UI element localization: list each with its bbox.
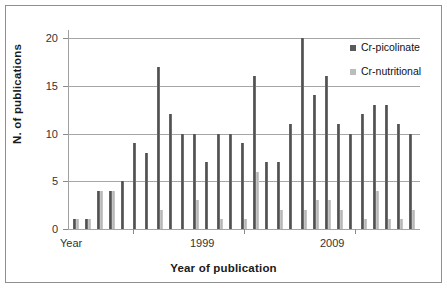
bar-nutritional <box>112 191 115 229</box>
bar-group <box>154 38 166 229</box>
bar-group <box>274 38 286 229</box>
bar-group <box>118 38 130 229</box>
bar-group <box>106 38 118 229</box>
bar-group <box>238 38 250 229</box>
bar-nutritional <box>280 210 283 229</box>
y-axis-title: N. of publications <box>11 9 23 179</box>
bar-nutritional <box>364 219 367 229</box>
legend-label: Cr-picolinate <box>361 42 420 53</box>
bar-nutritional <box>100 191 103 229</box>
x-tick-label: 1999 <box>190 238 214 249</box>
bar-group <box>166 38 178 229</box>
bar-picolinate <box>289 124 292 229</box>
legend-swatch-icon <box>350 69 356 75</box>
bar-nutritional <box>220 219 223 229</box>
bar-nutritional <box>256 172 259 229</box>
bar-group <box>310 38 322 229</box>
bar-group <box>202 38 214 229</box>
bar-nutritional <box>304 210 307 229</box>
bar-group <box>322 38 334 229</box>
bar-group <box>178 38 190 229</box>
bar-group <box>262 38 274 229</box>
x-tick-mark <box>355 229 356 234</box>
chart-legend: Cr-picolinateCr-nutritional <box>350 42 442 90</box>
bar-nutritional <box>88 219 91 229</box>
bar-group <box>82 38 94 229</box>
bar-nutritional <box>412 210 415 229</box>
bar-nutritional <box>328 200 331 229</box>
bar-nutritional <box>76 219 79 229</box>
bar-picolinate <box>301 38 304 229</box>
bar-picolinate <box>229 134 232 230</box>
bar-group <box>250 38 262 229</box>
bar-picolinate <box>349 134 352 230</box>
bar-nutritional <box>160 210 163 229</box>
chart-figure: N. of publications 05101520 Year19992009… <box>0 0 447 288</box>
bar-nutritional <box>376 191 379 229</box>
bar-group <box>130 38 142 229</box>
x-tick-mark <box>244 229 245 234</box>
bar-picolinate <box>217 134 220 230</box>
bar-picolinate <box>145 153 148 229</box>
x-axis-title: Year of publication <box>0 262 447 274</box>
bar-group <box>94 38 106 229</box>
bar-group <box>214 38 226 229</box>
bar-picolinate <box>133 143 136 229</box>
bar-group <box>70 38 82 229</box>
x-tick-mark <box>133 229 134 234</box>
bar-picolinate <box>181 134 184 230</box>
bar-group <box>334 38 346 229</box>
legend-item: Cr-nutritional <box>350 66 442 77</box>
bar-group <box>142 38 154 229</box>
bar-group <box>298 38 310 229</box>
bar-picolinate <box>397 124 400 229</box>
bar-group <box>226 38 238 229</box>
bar-nutritional <box>244 219 247 229</box>
bar-nutritional <box>340 210 343 229</box>
bar-nutritional <box>388 219 391 229</box>
bar-picolinate <box>169 114 172 229</box>
x-tick-label: 2009 <box>320 238 344 249</box>
legend-swatch-icon <box>350 45 356 51</box>
legend-item: Cr-picolinate <box>350 42 442 53</box>
x-axis-ticks <box>68 229 420 234</box>
bar-picolinate <box>385 105 388 229</box>
bar-picolinate <box>361 114 364 229</box>
x-tick-label: Year <box>60 238 82 249</box>
bar-group <box>286 38 298 229</box>
bar-nutritional <box>316 200 319 229</box>
bar-picolinate <box>121 181 124 229</box>
bar-picolinate <box>205 162 208 229</box>
bar-picolinate <box>265 162 268 229</box>
bar-picolinate <box>241 143 244 229</box>
bar-nutritional <box>196 200 199 229</box>
bar-picolinate <box>157 67 160 229</box>
legend-label: Cr-nutritional <box>361 66 421 77</box>
bar-group <box>190 38 202 229</box>
bar-nutritional <box>400 219 403 229</box>
